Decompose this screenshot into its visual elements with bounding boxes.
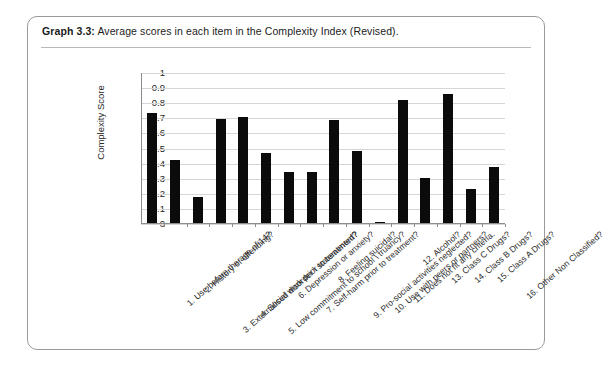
- bar: [375, 222, 385, 224]
- bar: [284, 172, 294, 223]
- bar: [261, 153, 271, 223]
- figure-caption: Graph 3.3: Average scores in each item i…: [42, 25, 532, 37]
- figure-card: Graph 3.3: Average scores in each item i…: [27, 16, 545, 350]
- bar: [489, 167, 499, 223]
- x-axis-tick-labels: 1. Use before the age of 14?2. History o…: [141, 225, 505, 345]
- bar: [307, 172, 317, 223]
- y-axis-line: [141, 73, 142, 224]
- y-axis-title: Complexity Score: [95, 58, 106, 188]
- chart-region: Complexity Score 10.90.80.70.60.50.40.30…: [41, 51, 533, 347]
- bar: [238, 117, 248, 223]
- caption-text: Average scores in each item in the Compl…: [97, 25, 398, 37]
- caption-label: Graph 3.3:: [42, 25, 95, 37]
- bar: [420, 178, 430, 223]
- bar: [329, 120, 339, 223]
- bar: [170, 160, 180, 223]
- bar: [443, 94, 453, 223]
- gridline: [141, 73, 505, 74]
- x-axis-tick: [505, 224, 506, 227]
- bar: [398, 100, 408, 223]
- bar: [216, 119, 226, 223]
- bar: [147, 113, 157, 223]
- plot-area: [141, 73, 505, 224]
- gridline: [141, 88, 505, 89]
- bar: [466, 189, 476, 223]
- bar: [193, 197, 203, 223]
- x-axis-tick-label: 2. History of offending?: [203, 229, 276, 294]
- caption-divider: [41, 47, 531, 48]
- bar: [352, 151, 362, 223]
